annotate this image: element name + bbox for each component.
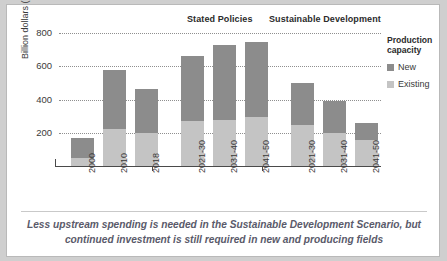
gridline-800	[59, 33, 381, 34]
group-header-stated-policies: Stated Policies	[187, 14, 253, 24]
x-label-sds-2041-50: 2041-50	[371, 140, 381, 173]
x-label-sds-2021-30: 2021-30	[307, 140, 317, 173]
legend-item-new[interactable]: New	[387, 62, 447, 72]
bar-segment-new	[355, 123, 378, 140]
bar-segment-new	[323, 101, 346, 133]
x-label-steps-2041-50: 2041-50	[261, 140, 271, 173]
caption-line2: continued investment is still required i…	[65, 234, 383, 245]
legend: Production capacity New Existing	[387, 35, 447, 89]
chart-caption: Less upstream spending is needed in the …	[21, 217, 427, 247]
legend-swatch-new	[387, 64, 394, 71]
caption-line1: Less upstream spending is needed in the …	[27, 219, 421, 230]
x-label-2000: 2000	[87, 153, 97, 173]
bar-segment-new	[291, 83, 314, 125]
legend-swatch-existing	[387, 81, 394, 88]
bar-segment-new	[135, 89, 158, 133]
legend-title: Production capacity	[387, 35, 447, 55]
bar-segment-new	[181, 56, 204, 121]
x-label-sds-2031-40: 2031-40	[339, 140, 349, 173]
x-label-steps-2031-40: 2031-40	[229, 140, 239, 173]
caption-divider	[21, 211, 427, 212]
x-axis-line	[55, 166, 381, 167]
group-header-sustainable-development: Sustainable Development	[269, 14, 381, 24]
bar-segment-new	[213, 45, 236, 121]
legend-label-new: New	[398, 62, 416, 72]
legend-item-existing[interactable]: Existing	[387, 79, 447, 89]
legend-title-line1: Production	[387, 35, 447, 45]
x-label-2010: 2010	[119, 153, 129, 173]
chart-card: Stated Policies Sustainable Development …	[6, 4, 440, 257]
y-tick-400: 400	[22, 94, 52, 105]
legend-title-line2: capacity	[387, 45, 447, 55]
x-label-2018: 2018	[151, 153, 161, 173]
plot-area: Billion dollars (2018) 800 600 400 200	[59, 33, 381, 166]
bar-segment-new	[245, 42, 268, 117]
legend-label-existing: Existing	[398, 79, 430, 89]
y-tick-200: 200	[22, 127, 52, 138]
x-label-steps-2021-30: 2021-30	[197, 140, 207, 173]
bar-segment-new	[103, 70, 126, 129]
y-tick-800: 800	[22, 27, 52, 38]
y-tick-600: 600	[22, 60, 52, 71]
